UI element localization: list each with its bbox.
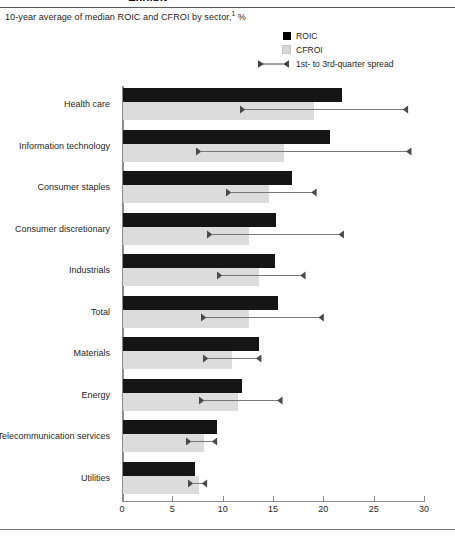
x-tick-label-15: 15 bbox=[268, 504, 278, 514]
x-tick-label-30: 30 bbox=[419, 504, 429, 514]
category-label: Consumer discretionary bbox=[15, 224, 110, 234]
bar-roic bbox=[123, 337, 259, 351]
spread-marker bbox=[217, 271, 306, 280]
legend-label-cfroi: CFROI bbox=[296, 45, 323, 55]
bar-row: Health care bbox=[0, 88, 455, 122]
bar-row: Materials bbox=[0, 337, 455, 371]
category-label: Telecommunication services bbox=[0, 431, 110, 441]
top-rule bbox=[0, 7, 455, 8]
bar-roic bbox=[123, 462, 195, 476]
category-label: Materials bbox=[73, 348, 110, 358]
spread-marker bbox=[188, 479, 207, 488]
legend-item-roic: ROIC bbox=[255, 29, 455, 42]
bar-roic bbox=[123, 254, 275, 268]
x-tick-label-25: 25 bbox=[369, 504, 379, 514]
bar-roic bbox=[123, 420, 217, 434]
legend-label-spread: 1st- to 3rd-quarter spread bbox=[296, 59, 393, 69]
category-label: Total bbox=[91, 307, 110, 317]
spread-marker bbox=[203, 354, 261, 363]
bar-roic bbox=[123, 213, 276, 227]
x-tick-label-10: 10 bbox=[218, 504, 228, 514]
bar-roic bbox=[123, 171, 292, 185]
bar-roic bbox=[123, 88, 342, 102]
category-label: Industrials bbox=[69, 265, 110, 275]
bar-row: Telecommunication services bbox=[0, 420, 455, 454]
spread-marker bbox=[240, 105, 408, 114]
spread-marker bbox=[196, 147, 411, 156]
x-tick-label-20: 20 bbox=[318, 504, 328, 514]
bar-roic bbox=[123, 130, 330, 144]
x-tick-0 bbox=[122, 496, 123, 502]
category-label: Energy bbox=[81, 390, 110, 400]
chart-subtitle: 10-year average of median ROIC and CFROI… bbox=[5, 12, 246, 22]
legend-item-cfroi: CFROI bbox=[255, 43, 455, 56]
legend-item-spread: 1st- to 3rd-quarter spread bbox=[255, 57, 455, 70]
bottom-rule bbox=[0, 529, 455, 530]
bar-row: Information technology bbox=[0, 130, 455, 164]
chart-figure: Exhibit 10-year average of median ROIC a… bbox=[0, 0, 455, 540]
x-tick-20 bbox=[323, 496, 324, 502]
category-label: Health care bbox=[64, 99, 110, 109]
x-tick-5 bbox=[172, 496, 173, 502]
category-label: Utilities bbox=[81, 473, 110, 483]
chart-legend: ROIC CFROI 1st- to 3rd-quarter spread bbox=[255, 29, 455, 71]
bar-row: Energy bbox=[0, 379, 455, 413]
subtitle-text: 10-year average of median ROIC and CFROI… bbox=[5, 12, 231, 22]
bar-row: Consumer discretionary bbox=[0, 213, 455, 247]
x-tick-30 bbox=[424, 496, 425, 502]
x-tick-10 bbox=[223, 496, 224, 502]
bar-roic bbox=[123, 379, 242, 393]
x-tick-label-5: 5 bbox=[170, 504, 175, 514]
spread-marker bbox=[199, 396, 283, 405]
subtitle-footnote-marker: 1 bbox=[231, 10, 235, 17]
spread-marker bbox=[207, 230, 344, 239]
spread-marker-icon bbox=[255, 59, 291, 69]
legend-label-roic: ROIC bbox=[296, 31, 317, 41]
bar-row: Total bbox=[0, 296, 455, 330]
x-tick-25 bbox=[374, 496, 375, 502]
bar-row: Consumer staples bbox=[0, 171, 455, 205]
category-label: Information technology bbox=[19, 141, 110, 151]
legend-swatch-roic bbox=[255, 31, 291, 41]
legend-swatch-cfroi bbox=[255, 45, 291, 55]
bar-row: Industrials bbox=[0, 254, 455, 288]
plot-area: 051015202530 Health careInformation tech… bbox=[0, 86, 455, 511]
category-label: Consumer staples bbox=[37, 182, 110, 192]
x-tick-15 bbox=[273, 496, 274, 502]
spread-marker bbox=[226, 188, 317, 197]
subtitle-unit: % bbox=[238, 12, 246, 22]
clipped-exhibit-title: Exhibit bbox=[128, 0, 167, 3]
x-tick-label-0: 0 bbox=[119, 504, 124, 514]
bar-roic bbox=[123, 296, 278, 310]
bar-cfroi bbox=[123, 476, 199, 494]
bar-row: Utilities bbox=[0, 462, 455, 496]
spread-marker bbox=[186, 437, 217, 446]
spread-marker bbox=[201, 313, 324, 322]
